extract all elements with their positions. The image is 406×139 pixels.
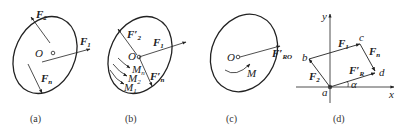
svg-text:F1: F1 [337,37,349,51]
figure-b: O F′2 F1 F′n Mn M2 M1 (b) [96,6,186,125]
svg-text:a: a [322,86,328,98]
svg-text:M: M [246,67,257,79]
svg-text:F1: F1 [79,35,91,49]
force-system-diagram: O F2 F1 Fn (a) O F′2 F1 F′n Mn M2 M1 (b)… [0,0,406,139]
figure-c: O F′RO M (c) [198,3,292,125]
svg-text:O: O [128,50,136,62]
figure-a: O F2 F1 Fn (a) [1,6,91,125]
figure-d: y x a b c d α F1 F2 Fn F′R (d) [296,10,394,125]
svg-text:b: b [302,51,308,63]
svg-text:F′RO: F′RO [271,47,292,61]
svg-text:F1: F1 [152,36,164,50]
svg-text:F′2: F′2 [126,28,141,42]
caption-c: (c) [226,113,237,125]
svg-text:x: x [388,88,394,100]
svg-text:y: y [321,10,327,22]
svg-text:F2: F2 [35,8,47,22]
svg-text:Fn: Fn [40,72,52,86]
svg-text:Fn: Fn [368,45,380,59]
svg-text:F′R: F′R [348,64,364,78]
caption-b: (b) [125,113,137,125]
center-label: O [35,47,43,59]
svg-text:F′n: F′n [149,70,164,84]
svg-text:α: α [351,78,357,90]
caption-a: (a) [30,113,41,125]
svg-text:d: d [379,66,385,78]
caption-d: (d) [333,113,345,125]
svg-text:O: O [227,51,235,63]
svg-text:c: c [359,31,364,43]
